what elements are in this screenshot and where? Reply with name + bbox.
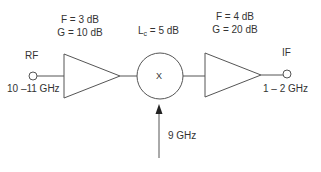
rf-port-icon — [29, 72, 37, 80]
amplifier-2-gain: G = 20 dB — [205, 24, 265, 35]
rf-frequency: 10 –11 GHz — [7, 83, 60, 94]
mixer-loss-value: = 5 dB — [147, 25, 179, 36]
amplifier-1-specs: F = 3 dB G = 10 dB — [50, 14, 110, 38]
amplifier-1-gain: G = 10 dB — [50, 27, 110, 38]
amplifier-2-noise-figure: F = 4 dB — [205, 11, 265, 22]
mixer-conversion-loss: Lc = 5 dB — [138, 25, 179, 39]
if-port-icon — [283, 70, 291, 78]
lo-frequency: 9 GHz — [168, 130, 196, 141]
mixer-symbol: X — [156, 71, 162, 82]
lo-arrow-head-icon — [156, 104, 163, 114]
if-label: IF — [282, 47, 291, 58]
rf-label: RF — [25, 50, 38, 61]
amplifier-1-noise-figure: F = 3 dB — [50, 14, 110, 25]
amplifier-2-specs: F = 4 dB G = 20 dB — [205, 11, 265, 35]
amplifier-1-icon — [64, 54, 120, 98]
if-frequency: 1 – 2 GHz — [263, 83, 308, 94]
amplifier-2-icon — [205, 53, 261, 97]
